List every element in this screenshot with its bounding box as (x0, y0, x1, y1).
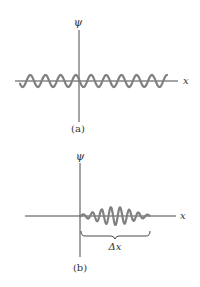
caption-a: (a) (71, 123, 85, 134)
psi-label-a: ψ (74, 16, 83, 29)
wave-figure: ψ x (a) ψ x Δx (b) (0, 0, 200, 287)
x-label-a: x (183, 75, 189, 86)
x-label-b: x (180, 210, 186, 221)
delta-x-bracket (81, 231, 150, 239)
caption-b: (b) (73, 262, 87, 273)
psi-label-b: ψ (76, 150, 85, 163)
delta-x-label: Δx (108, 241, 122, 252)
panel-b: ψ x Δx (b) (25, 150, 186, 273)
panel-a: ψ x (a) (15, 16, 189, 134)
